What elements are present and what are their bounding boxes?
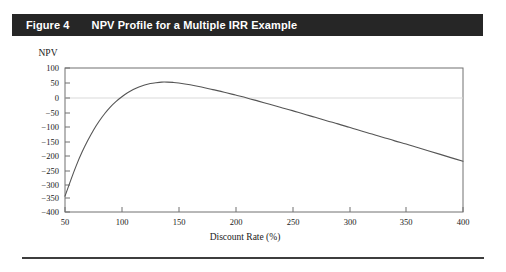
x-tick-label: 150	[173, 217, 186, 227]
x-axis-title: Discount Rate (%)	[210, 232, 281, 243]
figure-panel: Figure 4 NPV Profile for a Multiple IRR …	[0, 0, 506, 272]
y-tick-label: 0	[55, 93, 59, 103]
y-tick-label: −150	[41, 137, 59, 147]
y-tick-label: −350	[41, 193, 59, 203]
figure-header-bar: Figure 4 NPV Profile for a Multiple IRR …	[12, 14, 483, 36]
npv-profile-chart: NPV 100 50 0 −50 −100 −150 −200 −250 −30…	[0, 40, 506, 245]
x-tick-label: 200	[230, 217, 243, 227]
x-axis-ticks	[65, 207, 463, 212]
y-tick-label: −50	[46, 108, 59, 118]
y-tick-label: −400	[41, 207, 59, 217]
y-axis-tick-labels: 100 50 0 −50 −100 −150 −200 −250 −300 −3…	[41, 63, 59, 217]
x-tick-label: 400	[457, 217, 470, 227]
x-tick-label: 250	[287, 217, 300, 227]
y-tick-label: −250	[41, 166, 59, 176]
x-tick-label: 350	[400, 217, 413, 227]
y-tick-label: 50	[51, 78, 60, 88]
y-tick-label: −100	[41, 122, 59, 132]
bottom-divider-rule	[22, 257, 484, 259]
x-axis-tick-labels: 50 100 150 200 250 300 350 400	[61, 217, 470, 227]
y-tick-label: −300	[41, 180, 59, 190]
npv-curve-line	[65, 82, 463, 196]
chart-canvas: NPV 100 50 0 −50 −100 −150 −200 −250 −30…	[0, 40, 506, 245]
x-tick-label: 300	[344, 217, 357, 227]
figure-title: NPV Profile for a Multiple IRR Example	[92, 19, 298, 31]
y-tick-label: −200	[41, 151, 59, 161]
y-axis-title: NPV	[38, 48, 57, 58]
y-tick-label: 100	[46, 63, 59, 73]
x-tick-label: 100	[116, 217, 129, 227]
x-tick-label: 50	[61, 217, 70, 227]
plot-frame	[65, 68, 463, 212]
figure-number-label: Figure 4	[26, 19, 70, 31]
